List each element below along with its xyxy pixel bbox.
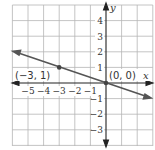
x-tick-neg4: −4 <box>37 86 51 96</box>
x-axis-label: x <box>143 70 149 81</box>
x-tick-neg5: −5 <box>21 86 35 96</box>
point-neg3-1 <box>57 65 62 70</box>
y-axis-label: y <box>109 2 116 13</box>
x-tick-neg3: −3 <box>53 86 67 96</box>
y-axis-down-arrow-icon <box>104 140 109 147</box>
coordinate-plane: −5 −4 −3 −2 −1 4 3 2 1 −1 −2 −3 y x (−3,… <box>0 0 155 150</box>
y-tick-1: 1 <box>97 63 103 73</box>
y-tick-3: 3 <box>97 32 103 42</box>
y-tick-neg2: −2 <box>90 109 103 119</box>
x-axis-right-arrow-icon <box>146 81 153 86</box>
y-tick-2: 2 <box>97 47 103 57</box>
x-axis-left-arrow-icon <box>12 81 19 86</box>
line-left-arrow-icon <box>13 51 21 56</box>
point-label-origin: (0, 0) <box>109 70 136 81</box>
point-origin <box>104 81 109 86</box>
point-label-neg3-1: (−3, 1) <box>15 70 50 81</box>
y-tick-4: 4 <box>97 16 103 26</box>
y-tick-neg1: −1 <box>90 94 103 104</box>
line-right-arrow-icon <box>144 94 152 99</box>
x-tick-neg2: −2 <box>68 86 81 96</box>
y-tick-neg3: −3 <box>90 125 104 135</box>
y-axis-up-arrow-icon <box>104 3 109 10</box>
